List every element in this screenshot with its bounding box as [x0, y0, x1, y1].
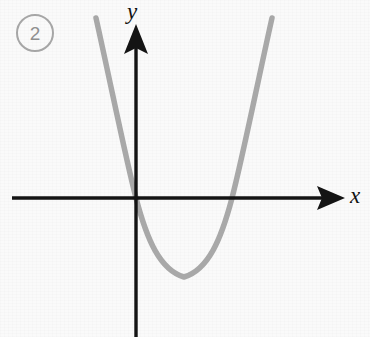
- y-axis-label: y: [127, 0, 137, 23]
- exercise-number-label: 2: [30, 24, 41, 43]
- x-axis-label: x: [350, 184, 360, 207]
- figure-container: 2 y x: [0, 0, 370, 337]
- parabola-curve: [96, 18, 272, 277]
- parabola-plot: [0, 0, 370, 337]
- exercise-number-badge: 2: [16, 14, 54, 52]
